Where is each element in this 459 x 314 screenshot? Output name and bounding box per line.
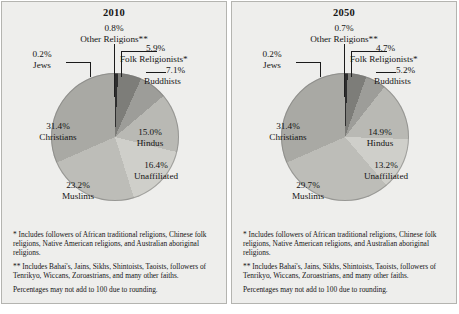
- callout-percent: 4.7%: [376, 43, 418, 54]
- callout-percent: 0.7%: [232, 23, 456, 34]
- footnotes: * Includes followers of African traditio…: [13, 230, 215, 295]
- slice-name: Hindus: [137, 138, 164, 148]
- slice-percent: 31.4%: [276, 121, 300, 131]
- callout-percent: 5.9%: [146, 43, 188, 54]
- slice-label-unaffiliated: 16.4% Unaffiliated: [114, 160, 198, 181]
- callout-name: Buddhists: [144, 76, 185, 87]
- callout-percent: 0.2%: [248, 49, 296, 60]
- callout-name: Other Religions**: [2, 34, 226, 45]
- chart-panel-2050: 2050 0.7% Other Religions** 0.2% Jews 4.…: [231, 1, 457, 304]
- callout-buddhists: 7.1% Buddhists: [144, 65, 185, 86]
- footnote-rounding: Percentages may not add to 100 due to ro…: [13, 285, 215, 294]
- leader-line-jews-horizontal: [66, 62, 90, 63]
- callout-name: Folk Religionists*: [120, 54, 188, 65]
- leader-line-jews-horizontal: [296, 62, 320, 63]
- footnotes: * Includes followers of African traditio…: [243, 230, 445, 295]
- callout-jews: 0.2% Jews: [248, 49, 296, 70]
- slice-percent: 15.0%: [138, 127, 162, 137]
- slice-label-hindus: 14.9% Hindus: [344, 127, 416, 148]
- slice-name: Christians: [39, 132, 76, 142]
- figure-sheet: 2010 0.8% Other Religions** 0.2% Jews 5.…: [0, 0, 459, 314]
- callout-percent: 0.8%: [2, 23, 226, 34]
- slice-label-unaffiliated: 13.2% Unaffiliated: [344, 160, 428, 181]
- slice-name: Unaffiliated: [134, 171, 178, 181]
- leader-line-jews-vertical: [320, 62, 321, 77]
- slice-name: Unaffiliated: [364, 171, 408, 181]
- slice-label-christians: 31.4% Christians: [16, 121, 100, 142]
- callout-percent: 7.1%: [166, 65, 185, 76]
- callout-other-religions: 0.7% Other Religions**: [232, 23, 456, 44]
- slice-percent: 16.4%: [144, 160, 168, 170]
- slice-name: Muslims: [292, 191, 324, 201]
- callout-percent: 0.2%: [18, 49, 66, 60]
- callout-jews: 0.2% Jews: [18, 49, 66, 70]
- callout-name: Buddhists: [374, 76, 415, 87]
- slice-percent: 13.2%: [374, 160, 398, 170]
- callout-other-religions: 0.8% Other Religions**: [2, 23, 226, 44]
- slice-percent: 14.9%: [368, 127, 392, 137]
- chart-panel-2010: 2010 0.8% Other Religions** 0.2% Jews 5.…: [1, 1, 227, 304]
- leader-line-other-religions: [114, 44, 115, 76]
- slice-name: Muslims: [62, 191, 94, 201]
- leader-line-other-religions: [344, 44, 345, 76]
- callout-folk-religionists: 4.7% Folk Religionists*: [350, 43, 418, 64]
- slice-name: Hindus: [367, 138, 394, 148]
- slice-label-muslims: 23.2% Muslims: [40, 180, 116, 201]
- slice-name: Christians: [269, 132, 306, 142]
- slice-percent: 31.4%: [46, 121, 70, 131]
- callout-name: Folk Religionists*: [350, 54, 418, 65]
- callout-buddhists: 5.2% Buddhists: [374, 65, 415, 86]
- slice-label-christians: 31.4% Christians: [246, 121, 330, 142]
- slice-percent: 23.2%: [66, 180, 90, 190]
- callout-folk-religionists: 5.9% Folk Religionists*: [120, 43, 188, 64]
- panel-title: 2050: [232, 7, 456, 18]
- slice-label-hindus: 15.0% Hindus: [114, 127, 186, 148]
- leader-line-jews-vertical: [90, 62, 91, 77]
- callout-name: Other Religions**: [232, 34, 456, 45]
- footnote-double-asterisk: ** Includes Bahai's, Jains, Sikhs, Shint…: [243, 262, 445, 280]
- slice-percent: 29.7%: [296, 180, 320, 190]
- callout-name: Jews: [248, 60, 296, 71]
- callout-percent: 5.2%: [396, 65, 415, 76]
- callout-name: Jews: [18, 60, 66, 71]
- footnote-single-asterisk: * Includes followers of African traditio…: [13, 230, 215, 257]
- footnote-rounding: Percentages may not add to 100 due to ro…: [243, 285, 445, 294]
- footnote-single-asterisk: * Includes followers of African traditio…: [243, 230, 445, 257]
- slice-label-muslims: 29.7% Muslims: [270, 180, 346, 201]
- panel-title: 2010: [2, 7, 226, 18]
- footnote-double-asterisk: ** Includes Bahai's, Jains, Sikhs, Shint…: [13, 262, 215, 280]
